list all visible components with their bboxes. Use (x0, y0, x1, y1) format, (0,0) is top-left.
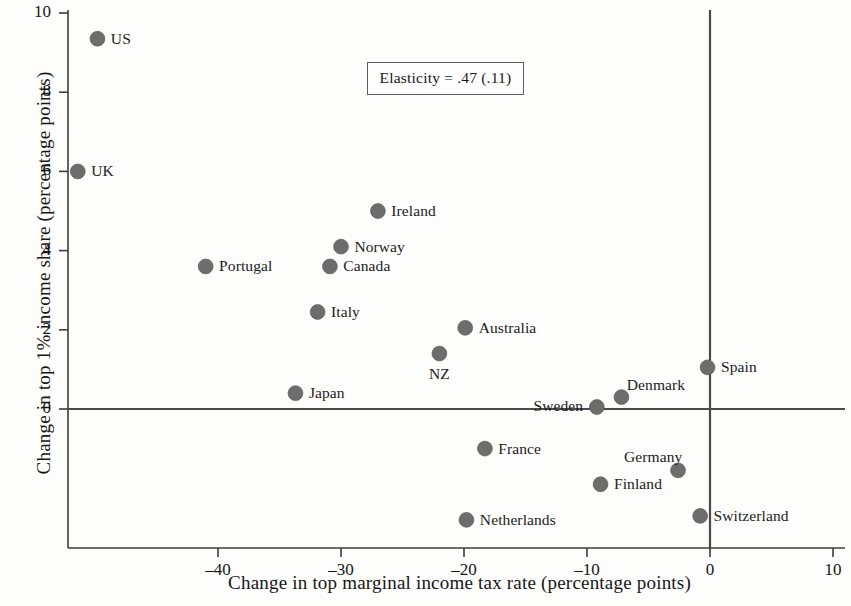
data-point-label: Italy (331, 303, 360, 321)
data-point-marker[interactable] (700, 360, 715, 375)
data-point-label: UK (91, 162, 114, 180)
data-point-marker[interactable] (288, 386, 303, 401)
x-axis-tick-label: –30 (316, 560, 366, 580)
data-point-label: Canada (343, 257, 390, 275)
data-point-label: Norway (354, 238, 405, 256)
data-point-label: France (498, 440, 541, 458)
data-point-marker[interactable] (593, 477, 608, 492)
data-point[interactable] (334, 239, 349, 254)
data-point-marker[interactable] (90, 31, 105, 46)
y-axis-tick-label: 6 (11, 160, 51, 180)
data-point-label: Germany (624, 448, 682, 466)
data-point-label: Switzerland (714, 507, 789, 525)
data-point-marker[interactable] (198, 259, 213, 274)
data-point-label: Japan (309, 384, 345, 402)
data-point-label: NZ (429, 365, 450, 383)
data-point-label: Sweden (533, 397, 583, 415)
data-point-label: Australia (479, 319, 537, 337)
data-point-marker[interactable] (458, 320, 473, 335)
data-point[interactable] (593, 477, 608, 492)
data-point[interactable] (458, 320, 473, 335)
data-point-label: Spain (721, 358, 757, 376)
data-point-label: Ireland (391, 202, 436, 220)
data-point[interactable] (700, 360, 715, 375)
data-point-marker[interactable] (371, 204, 386, 219)
data-point-marker[interactable] (334, 239, 349, 254)
data-point[interactable] (310, 305, 325, 320)
x-axis-tick-label: –40 (193, 560, 243, 580)
data-point[interactable] (693, 509, 708, 524)
data-point-label: Denmark (627, 376, 685, 394)
data-point-label: Netherlands (480, 511, 556, 529)
y-axis-tick-label: 2 (11, 319, 51, 339)
data-point[interactable] (288, 386, 303, 401)
x-axis-tick-label: –20 (439, 560, 489, 580)
data-point[interactable] (589, 400, 604, 415)
y-axis-tick-label: 10 (11, 2, 51, 22)
elasticity-annotation: Elasticity = .47 (.11) (367, 62, 525, 95)
data-point-marker[interactable] (432, 346, 447, 361)
x-axis-tick-label: –10 (562, 560, 612, 580)
data-point-marker[interactable] (459, 512, 474, 527)
data-point[interactable] (459, 512, 474, 527)
data-point-label: US (111, 30, 131, 48)
data-point[interactable] (432, 346, 447, 361)
data-point-marker[interactable] (310, 305, 325, 320)
data-point[interactable] (323, 259, 338, 274)
data-point[interactable] (478, 441, 493, 456)
x-axis-tick-label: 0 (685, 560, 735, 580)
data-point-label: Finland (614, 475, 662, 493)
data-point-marker[interactable] (70, 164, 85, 179)
y-axis-tick-label: 4 (11, 240, 51, 260)
data-point-marker[interactable] (589, 400, 604, 415)
scatter-plot-figure: Change in top 1% income share (percentag… (0, 0, 851, 606)
y-axis-tick-label: 0 (11, 398, 51, 418)
data-point[interactable] (198, 259, 213, 274)
data-point-label: Portugal (219, 257, 272, 275)
data-point-marker[interactable] (693, 509, 708, 524)
x-axis-tick-label: 10 (808, 560, 851, 580)
data-point-marker[interactable] (478, 441, 493, 456)
data-point[interactable] (90, 31, 105, 46)
data-point[interactable] (70, 164, 85, 179)
data-point[interactable] (371, 204, 386, 219)
y-axis-tick-label: 8 (11, 81, 51, 101)
data-point-marker[interactable] (323, 259, 338, 274)
